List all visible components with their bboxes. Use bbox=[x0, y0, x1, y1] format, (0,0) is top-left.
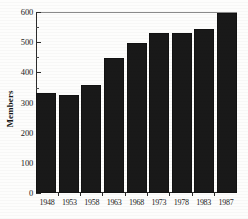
x-tick-label-1983: 1983 bbox=[193, 198, 215, 207]
y-tick-label-100: 100 bbox=[5, 159, 33, 168]
bar-chart-screenshot: Members 600 500 400 300 200 100 0 bbox=[0, 0, 248, 219]
bar-1948 bbox=[36, 93, 56, 193]
x-axis-tick-labels: 1948 1953 1958 1963 1968 1973 1978 1983 … bbox=[36, 198, 237, 207]
x-tick-label-1978: 1978 bbox=[170, 198, 192, 207]
y-tick-label-0: 0 bbox=[5, 189, 33, 198]
x-tick-label-1963: 1963 bbox=[103, 198, 125, 207]
bar-1958 bbox=[81, 85, 101, 193]
y-axis-tick-labels: 600 500 400 300 200 100 0 bbox=[0, 0, 33, 219]
bar-1973 bbox=[149, 33, 169, 193]
y-tick-label-600: 600 bbox=[5, 8, 33, 17]
bar-1953 bbox=[59, 95, 79, 193]
bar-1987 bbox=[217, 13, 237, 193]
x-tick-label-1968: 1968 bbox=[126, 198, 148, 207]
y-tick-label-200: 200 bbox=[5, 129, 33, 138]
bar-1983 bbox=[194, 29, 214, 193]
bar-1968 bbox=[127, 43, 147, 193]
x-tick-label-1953: 1953 bbox=[58, 198, 80, 207]
y-tick-label-300: 300 bbox=[5, 99, 33, 108]
x-tick-label-1973: 1973 bbox=[148, 198, 170, 207]
x-tick-label-1987: 1987 bbox=[215, 198, 237, 207]
x-tick-label-1948: 1948 bbox=[36, 198, 58, 207]
bar-1978 bbox=[172, 33, 192, 193]
y-tick-label-500: 500 bbox=[5, 38, 33, 47]
bar-series bbox=[36, 12, 237, 193]
bar-1963 bbox=[104, 58, 124, 193]
x-tick-label-1958: 1958 bbox=[81, 198, 103, 207]
y-tick-label-400: 400 bbox=[5, 68, 33, 77]
